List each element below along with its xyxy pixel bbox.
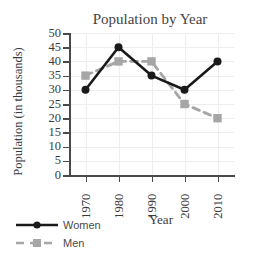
y-tick-label: 0 (35, 169, 61, 182)
legend-item-men[interactable]: Men (14, 234, 134, 252)
y-tick-mark (63, 147, 69, 149)
legend-label-men: Men (63, 237, 84, 249)
y-tick-label-wrap: 40 (33, 55, 61, 68)
chart-figure: Population by Year Population (in thousa… (0, 0, 253, 254)
y-tick-mark (63, 47, 69, 49)
x-tick-mark (185, 176, 187, 182)
y-tick-label: 20 (35, 112, 61, 125)
y-tick-label: 25 (35, 98, 61, 111)
gridline-vertical (86, 33, 87, 175)
gridline-vertical (119, 33, 120, 175)
chart-legend: Women Men (14, 216, 134, 252)
y-tick-label: 35 (35, 69, 61, 82)
y-tick-label-wrap: 35 (33, 69, 61, 82)
x-tick-label-wrap: 2000 (178, 186, 192, 230)
legend-item-women[interactable]: Women (14, 216, 134, 234)
legend-swatch-men-line (14, 235, 60, 251)
x-tick-label: 2010 (211, 184, 224, 228)
plot-area (69, 33, 234, 175)
y-tick-label: 30 (35, 83, 61, 96)
y-tick-label-wrap: 45 (33, 41, 61, 54)
x-tick-mark (218, 176, 220, 182)
y-tick-mark (63, 132, 69, 134)
y-tick-label-wrap: 0 (33, 169, 61, 182)
gridline-vertical (152, 33, 153, 175)
gridline-vertical (185, 33, 186, 175)
y-tick-label-wrap: 20 (33, 112, 61, 125)
y-tick-mark (63, 161, 69, 163)
legend-swatch-women-line (14, 217, 60, 233)
y-tick-label-wrap: 5 (33, 154, 61, 167)
x-tick-mark (119, 176, 121, 182)
x-tick-label-wrap: 2010 (211, 186, 225, 230)
legend-label-women: Women (63, 219, 101, 231)
y-tick-mark (63, 104, 69, 106)
x-tick-mark (152, 176, 154, 182)
x-tick-label: 1990 (145, 184, 158, 228)
y-axis-line (69, 33, 71, 176)
y-tick-label-wrap: 50 (33, 27, 61, 40)
x-tick-label: 2000 (178, 184, 191, 228)
y-tick-label: 10 (35, 140, 61, 153)
chart-title: Population by Year (60, 11, 240, 28)
y-tick-label: 45 (35, 41, 61, 54)
x-tick-label-wrap: 1990 (145, 186, 159, 230)
y-tick-mark (63, 175, 69, 177)
y-tick-label-wrap: 25 (33, 98, 61, 111)
gridline-vertical (218, 33, 219, 175)
y-tick-label: 40 (35, 55, 61, 68)
y-axis-title: Population (in thousands) (11, 32, 26, 192)
y-tick-mark (63, 61, 69, 63)
y-tick-mark (63, 90, 69, 92)
y-tick-label-wrap: 30 (33, 83, 61, 96)
y-tick-label-wrap: 10 (33, 140, 61, 153)
y-tick-mark (63, 76, 69, 78)
y-tick-label: 15 (35, 126, 61, 139)
y-tick-label-wrap: 15 (33, 126, 61, 139)
y-tick-label: 50 (35, 27, 61, 40)
x-tick-mark (86, 176, 88, 182)
y-tick-mark (63, 118, 69, 120)
y-tick-label: 5 (35, 154, 61, 167)
clipped-header-text (0, 0, 253, 4)
y-tick-mark (63, 33, 69, 35)
